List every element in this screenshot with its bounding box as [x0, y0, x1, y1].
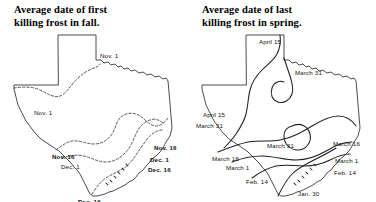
panel-spring-map: Average date of last killing frost in sp…: [188, 0, 376, 202]
map-label-spring-10: Feb. 14: [246, 178, 268, 185]
map-label-spring-2: April 15: [203, 111, 225, 118]
map-label-spring-5: March 16: [333, 140, 360, 147]
map-label-fall-3: Dec. 1: [61, 163, 80, 170]
page-title-spring: Average date of last killing frost in sp…: [202, 4, 367, 29]
map-label-fall-6: Dec. 16: [148, 166, 171, 173]
page-title-fall: Average date of first killing frost in f…: [14, 4, 179, 29]
panel-fall-map: Average date of first killing frost in f…: [0, 0, 188, 202]
map-label-spring-0: April 15: [259, 38, 281, 45]
map-label-fall-7: Dec. 16: [78, 198, 101, 202]
map-label-spring-7: Feb. 14: [334, 169, 356, 176]
map-label-spring-3: March 31: [196, 122, 223, 129]
map-canvas-spring: April 15 March 31 April 15 March 31 Marc…: [188, 30, 376, 202]
frost-date-map-figure: Average date of first killing frost in f…: [0, 0, 376, 202]
map-label-spring-11: Jan. 30: [298, 190, 319, 197]
map-label-fall-0: Nov. 1: [100, 52, 118, 59]
map-label-spring-4: March 31: [267, 142, 294, 149]
map-label-spring-9: March 1: [226, 164, 249, 171]
map-label-fall-2: Nov. 16: [52, 153, 75, 160]
map-label-fall-5: Dec. 1: [150, 156, 169, 163]
map-label-fall-1: Nov. 1: [34, 109, 52, 116]
map-label-spring-1: March 31: [295, 69, 322, 76]
map-label-spring-6: March 1: [335, 157, 358, 164]
map-label-fall-4: Nov. 16: [154, 144, 177, 151]
map-label-spring-8: March 16: [212, 155, 239, 162]
map-canvas-fall: Nov. 1 Nov. 1 Nov. 16 Dec. 1 Nov. 16 Dec…: [0, 30, 188, 202]
